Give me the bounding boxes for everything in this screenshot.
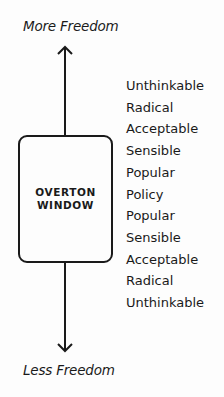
scale-item: Radical <box>126 97 204 119</box>
up-arrow-icon <box>58 47 72 136</box>
box-title-line2: WINDOW <box>37 199 94 212</box>
acceptability-scale: Unthinkable Radical Acceptable Sensible … <box>126 75 204 314</box>
box-title-line1: OVERTON <box>35 186 96 199</box>
scale-item: Unthinkable <box>126 292 204 314</box>
scale-item-policy: Policy <box>126 184 204 206</box>
scale-item: Acceptable <box>126 118 204 140</box>
less-freedom-label: Less Freedom <box>23 362 115 378</box>
scale-item: Sensible <box>126 140 204 162</box>
scale-item: Unthinkable <box>126 75 204 97</box>
down-arrow-icon <box>58 260 72 351</box>
scale-item: Radical <box>126 270 204 292</box>
scale-item: Acceptable <box>126 249 204 271</box>
scale-item: Sensible <box>126 227 204 249</box>
scale-item: Popular <box>126 162 204 184</box>
overton-window-box: OVERTON WINDOW <box>18 135 113 263</box>
scale-item: Popular <box>126 205 204 227</box>
